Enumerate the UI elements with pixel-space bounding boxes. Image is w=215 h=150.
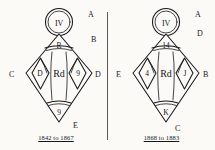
diagram-page: IV R 9 D 9 Rd A B bbox=[0, 0, 215, 150]
outer-label-top-right: A bbox=[88, 10, 94, 19]
bottom-cell-value: K bbox=[163, 108, 169, 117]
diagram-mark-1868-1883: IV 14 K 4 J Rd A bbox=[108, 0, 215, 150]
outer-label-right: B bbox=[203, 70, 208, 79]
outer-label-left: C bbox=[9, 70, 14, 79]
outer-label-upper-right: D bbox=[197, 29, 203, 38]
left-cell-value: 4 bbox=[145, 69, 149, 78]
top-cell-value: R bbox=[56, 41, 61, 50]
right-cell-value: J bbox=[184, 69, 187, 78]
caption-period-right: 1868 to 1883 bbox=[108, 134, 215, 141]
outer-label-upper-right: B bbox=[91, 35, 96, 44]
outer-label-right: D bbox=[95, 70, 101, 79]
bottom-cell-value: 9 bbox=[57, 108, 61, 117]
top-cell-value: 14 bbox=[162, 41, 170, 50]
outer-label-bottom-right: C bbox=[175, 124, 180, 133]
caption-period-left: 1842 to 1867 bbox=[2, 134, 110, 141]
registry-diamond-left: IV R 9 D 9 Rd A B bbox=[0, 0, 108, 150]
right-cell-value: 9 bbox=[76, 69, 80, 78]
outer-label-bottom-right: E bbox=[73, 121, 78, 130]
left-cell-value: D bbox=[37, 69, 43, 78]
center-cell-value: Rd bbox=[160, 68, 172, 79]
diagram-mark-1842-1867: IV R 9 D 9 Rd A B bbox=[0, 0, 108, 150]
outer-label-left: E bbox=[116, 70, 121, 79]
circle-class-label: IV bbox=[162, 19, 170, 28]
registry-diamond-right: IV 14 K 4 J Rd A bbox=[108, 0, 215, 150]
circle-class-label: IV bbox=[55, 19, 63, 28]
outer-label-top-right: A bbox=[195, 10, 201, 19]
center-cell-value: Rd bbox=[53, 68, 65, 79]
